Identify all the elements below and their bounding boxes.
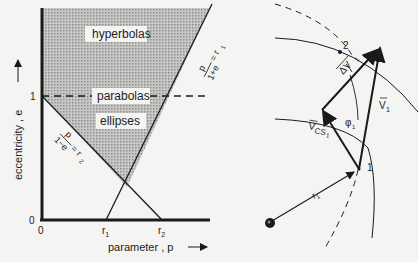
svg-text:1: 1 — [352, 124, 356, 130]
x-tick-0: 0 — [38, 225, 44, 236]
point-1-label: 1 — [367, 162, 373, 173]
svg-text:φ: φ — [345, 117, 352, 128]
svg-text:1: 1 — [386, 106, 390, 113]
point-2 — [338, 50, 342, 54]
svg-text:2: 2 — [78, 158, 85, 165]
svg-text:1: 1 — [326, 132, 331, 139]
svg-text:1: 1 — [353, 55, 361, 63]
svg-text:ΔV: ΔV — [336, 59, 353, 77]
angle-label: φ 1 — [345, 117, 356, 130]
hyperbolas-label: hyperbolas — [92, 27, 151, 41]
svg-text:p: p — [64, 129, 75, 140]
x-tick-r2: r2 — [158, 225, 165, 238]
svg-text:p: p — [196, 64, 207, 73]
svg-text:1: 1 — [220, 44, 227, 50]
x-axis-label: parameter , p — [108, 241, 173, 253]
parabolas-label: parabolas — [97, 89, 150, 103]
y-tick-1: 1 — [30, 91, 36, 102]
point-1 — [358, 168, 361, 171]
r1-line-equation: p 1+e = r 1 — [194, 39, 230, 82]
y-tick-0: 0 — [29, 215, 35, 226]
svg-text:= r: = r — [208, 49, 222, 63]
y-axis-label: eccentricity , e — [12, 110, 24, 180]
ellipses-label: ellipses — [100, 114, 140, 128]
point-2-label: 2 — [343, 40, 349, 51]
delta-v-vector — [322, 50, 377, 110]
v1-label: V 1 — [379, 98, 390, 113]
x-tick-r1: r1 — [102, 225, 109, 238]
figure: hyperbolas parabolas ellipses p 1+e = r … — [0, 0, 418, 262]
svg-text:CS: CS — [314, 126, 327, 137]
vcs-vector — [323, 111, 359, 169]
radius-label: r1 — [310, 189, 322, 202]
svg-text:= r: = r — [69, 143, 84, 158]
orbit-transfer-diagram: 2 1 r1 ΔV 1 V 1 V CS 1 φ 1 — [265, 4, 418, 248]
svg-text:V: V — [379, 100, 386, 111]
transfer-orbit-lower — [325, 170, 358, 248]
orbit-type-chart: hyperbolas parabolas ellipses p 1+e = r … — [12, 4, 230, 253]
transfer-orbit-arc — [275, 4, 352, 55]
svg-text:1+e: 1+e — [205, 63, 221, 81]
vcs-label: V CS 1 — [307, 120, 332, 139]
